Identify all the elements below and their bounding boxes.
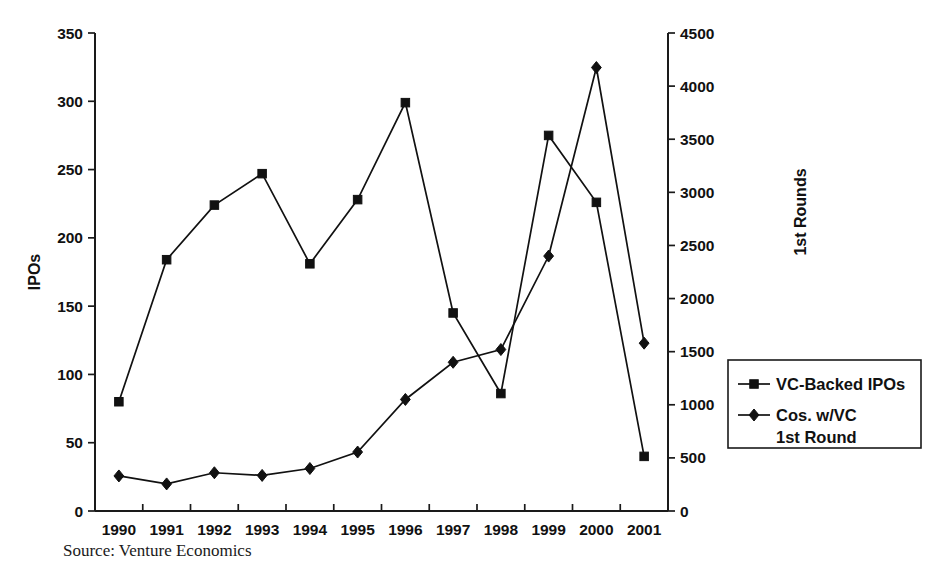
bottom-axis-tick-label: 1999 <box>531 521 566 538</box>
bottom-axis-tick-label: 1991 <box>149 521 184 538</box>
data-point-marker <box>353 195 362 204</box>
bottom-axis-tick-label: 1997 <box>436 521 470 538</box>
data-point-marker <box>544 131 553 140</box>
right-axis-tick-label: 2500 <box>680 237 714 254</box>
right-axis-tick-label: 4000 <box>680 78 714 95</box>
right-axis-tick-label: 500 <box>680 449 706 466</box>
data-point-marker <box>401 98 410 107</box>
left-axis-tick-label: 300 <box>57 93 83 110</box>
data-point-marker <box>210 201 219 210</box>
data-point-marker <box>497 389 506 398</box>
data-point-marker <box>162 255 171 263</box>
left-axis-tick-label: 200 <box>57 229 83 246</box>
data-point-marker <box>449 309 458 318</box>
right-axis-tick-label: 1000 <box>680 396 714 413</box>
bottom-axis-tick-label: 1998 <box>484 521 519 538</box>
source-note: Source: Venture Economics <box>63 541 252 560</box>
venture-capital-line-chart: 050100150200250300350IPOs050010001500200… <box>0 0 936 577</box>
chart-container: 050100150200250300350IPOs050010001500200… <box>0 0 936 577</box>
legend-label-2: Cos. w/VC <box>776 406 857 424</box>
left-axis-tick-label: 0 <box>74 503 83 520</box>
right-axis-tick-label: 3000 <box>680 184 714 201</box>
legend-layer: VC-Backed IPOsCos. w/VC1st Round <box>728 360 921 448</box>
left-axis-tick-label: 100 <box>57 366 83 383</box>
left-axis-tick-label: 350 <box>57 25 83 42</box>
legend-marker-square <box>750 380 759 389</box>
bottom-axis-tick-label: 1996 <box>388 521 423 538</box>
right-axis-tick-label: 3500 <box>680 131 714 148</box>
right-axis-title: 1st Rounds <box>792 168 809 255</box>
data-point-marker <box>592 198 601 207</box>
right-axis-tick-label: 2000 <box>680 290 714 307</box>
left-axis-title: IPOs <box>26 254 43 291</box>
data-point-marker <box>306 260 315 269</box>
bottom-axis-tick-label: 1992 <box>197 521 231 538</box>
data-point-marker <box>115 397 124 406</box>
bottom-axis-tick-label: 2001 <box>627 521 662 538</box>
bottom-axis-tick-label: 2000 <box>579 521 613 538</box>
left-axis-tick-label: 50 <box>66 434 83 451</box>
right-axis-tick-label: 4500 <box>680 25 714 42</box>
data-point-marker <box>640 452 649 461</box>
bottom-axis-tick-label: 1995 <box>340 521 375 538</box>
left-axis-tick-label: 250 <box>57 161 83 178</box>
right-axis-tick-label: 1500 <box>680 343 714 360</box>
plot-background <box>0 0 936 577</box>
bottom-axis-tick-label: 1993 <box>245 521 280 538</box>
left-axis-tick-label: 150 <box>57 298 83 315</box>
legend-label-2-line2: 1st Round <box>776 428 857 446</box>
bottom-axis-tick-label: 1994 <box>293 521 328 538</box>
legend-label-1: VC-Backed IPOs <box>776 375 905 393</box>
bottom-axis-tick-label: 1990 <box>102 521 136 538</box>
right-axis-tick-label: 0 <box>680 503 689 520</box>
data-point-marker <box>258 169 267 178</box>
